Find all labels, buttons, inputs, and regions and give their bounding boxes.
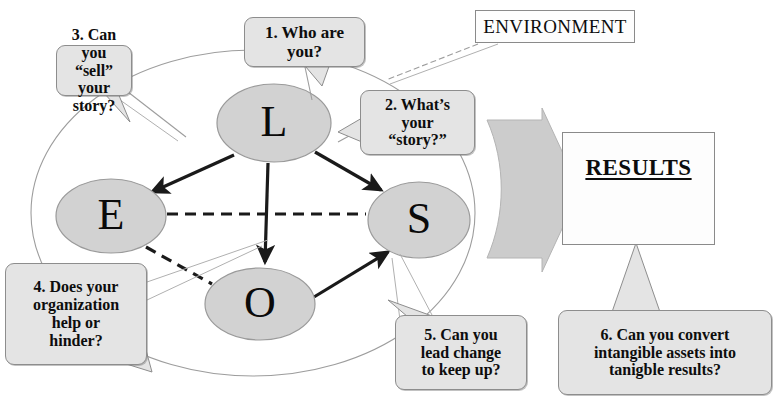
callout-5-can-you-lead-change[interactable]: 5. Can youlead changeto keep up? — [395, 315, 527, 390]
results-box: RESULTS — [562, 132, 715, 245]
callout-4-text: 4. Does yourorganizationhelp orhinder? — [12, 278, 140, 350]
callout-4-does-your-organization-help-or-hinder[interactable]: 4. Does yourorganizationhelp orhinder? — [5, 263, 147, 365]
callout-6-convert-intangible-assets[interactable]: 6. Can you convertintangible assets into… — [558, 310, 772, 395]
callout-3-text: 3. Can you“sell” yourstory? — [63, 26, 125, 116]
callout-3-can-you-sell-your-story[interactable]: 3. Can you“sell” yourstory? — [56, 45, 132, 96]
results-label-text: RESULTS — [585, 155, 691, 181]
callout-2-text: 2. What’syour“story?” — [367, 96, 468, 150]
callout-2-whats-your-story[interactable]: 2. What’syour“story?” — [360, 90, 475, 155]
leader-callout-5 — [392, 258, 400, 320]
node-ellipse-l — [217, 84, 331, 162]
node-ellipse-e — [56, 179, 166, 253]
callout-6-text: 6. Can you convertintangible assets into… — [565, 326, 765, 380]
arrow-l-to-s — [315, 152, 381, 190]
callout-5-text: 5. Can youlead changeto keep up? — [402, 326, 520, 380]
leader-callout-3 — [128, 92, 186, 137]
diagram-canvas: L E S O ENVIRONMENT RESULTS 1. Who areyo… — [0, 0, 782, 400]
leader-environment-second — [390, 44, 498, 84]
node-ellipse-s — [368, 182, 470, 258]
tail-callout-2 — [338, 118, 362, 142]
arrow-l-to-e — [152, 155, 234, 192]
callout-1-who-are-you[interactable]: 1. Who areyou? — [244, 17, 365, 67]
callout-1-text: 1. Who areyou? — [251, 23, 358, 61]
environment-label-text: ENVIRONMENT — [483, 16, 627, 38]
arrow-o-to-s — [314, 252, 388, 297]
environment-label-box: ENVIRONMENT — [475, 10, 635, 43]
leader-environment — [386, 44, 478, 80]
node-ellipse-o — [205, 268, 315, 340]
leader-callout-6 — [612, 243, 660, 312]
